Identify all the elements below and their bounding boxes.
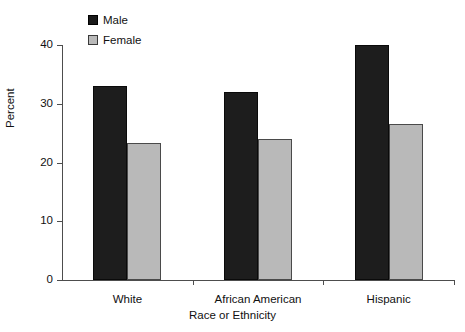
category-label-hispanic: Hispanic <box>367 293 411 305</box>
y-tick-label: 20 <box>40 156 53 169</box>
y-tick: 30 <box>57 104 62 105</box>
legend-swatch-male-icon <box>88 15 98 25</box>
y-tick: 40 <box>57 45 62 46</box>
y-tick-label: 30 <box>40 97 53 110</box>
bar-female-hispanic <box>389 124 423 280</box>
x-axis-line <box>62 280 454 281</box>
category-label-white: White <box>113 293 142 305</box>
legend-item-male: Male <box>88 13 141 27</box>
x-tick <box>323 280 324 285</box>
legend-swatch-female-icon <box>88 35 98 45</box>
x-tick <box>454 280 455 285</box>
category-label-african-american: African American <box>215 293 302 305</box>
legend-label-male: Male <box>103 14 128 26</box>
y-tick: 0 <box>57 280 62 281</box>
y-axis-line <box>62 45 63 280</box>
y-tick-label: 0 <box>47 273 53 286</box>
bar-male-hispanic <box>355 45 389 280</box>
bar-chart-figure: Male Female 010203040 WhiteAfrican Ameri… <box>0 0 465 332</box>
bar-female-white <box>127 143 161 280</box>
y-tick-label: 10 <box>40 214 53 227</box>
y-tick: 20 <box>57 163 62 164</box>
bar-female-african-american <box>258 139 292 280</box>
bar-male-african-american <box>224 92 258 280</box>
plot-area: 010203040 WhiteAfrican AmericanHispanic <box>62 45 454 280</box>
y-axis-title: Percent <box>4 88 16 128</box>
x-axis-title: Race or Ethnicity <box>0 309 465 321</box>
chart-legend: Male Female <box>88 13 141 47</box>
y-tick-label: 40 <box>40 38 53 51</box>
bar-male-white <box>93 86 127 280</box>
y-tick: 10 <box>57 221 62 222</box>
x-tick <box>193 280 194 285</box>
